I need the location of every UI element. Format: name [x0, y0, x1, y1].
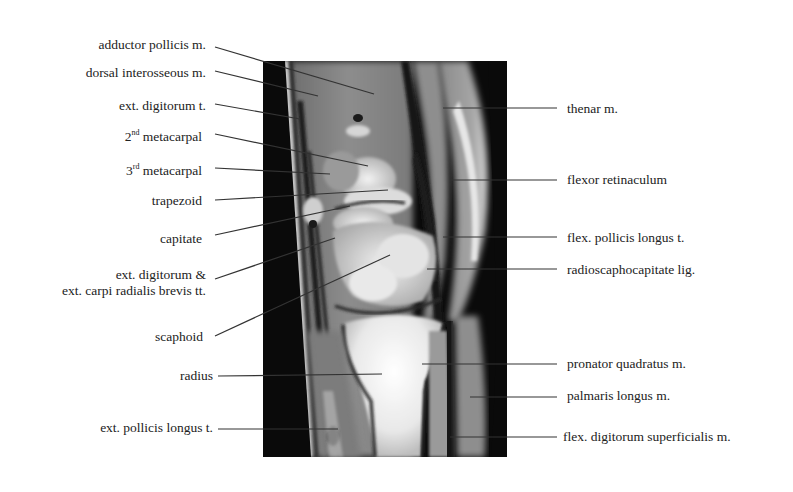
label-second-metacarpal: 2nd metacarpal [125, 129, 202, 145]
label-scaphoid: scaphoid [155, 329, 203, 345]
label-dorsal-interosseous: dorsal interosseous m. [86, 65, 206, 81]
label-radioscaphocapitate: radioscaphocapitate lig. [567, 262, 695, 278]
label-text: metacarpal [139, 163, 202, 178]
label-flex-digitorum-superficialis: flex. digitorum superficialis m. [563, 429, 731, 445]
label-text: metacarpal [139, 129, 202, 144]
label-flexor-retinaculum: flexor retinaculum [567, 172, 667, 188]
mri-rendering [263, 61, 507, 457]
label-capitate: capitate [160, 231, 202, 247]
label-line-1: ext. digitorum & [62, 267, 206, 283]
label-pronator-quadratus: pronator quadratus m. [567, 356, 686, 372]
label-ext-digitorum-ecrb: ext. digitorum & ext. carpi radialis bre… [62, 267, 206, 299]
label-palmaris-longus: palmaris longus m. [567, 388, 670, 404]
label-flex-pollicis-longus: flex. pollicis longus t. [567, 230, 684, 246]
label-radius: radius [180, 368, 213, 384]
anatomy-figure: adductor pollicis m. dorsal interosseous… [0, 0, 793, 492]
ordinal: 3 [126, 163, 133, 178]
wrist-mri-image [263, 61, 507, 457]
label-trapezoid: trapezoid [152, 193, 202, 209]
label-ext-digitorum-t: ext. digitorum t. [119, 98, 206, 114]
label-third-metacarpal: 3rd metacarpal [126, 163, 202, 179]
label-thenar: thenar m. [567, 101, 618, 117]
label-line-2: ext. carpi radialis brevis tt. [62, 283, 206, 299]
label-adductor-pollicis: adductor pollicis m. [98, 37, 206, 53]
label-ext-pollicis-longus: ext. pollicis longus t. [100, 420, 213, 436]
